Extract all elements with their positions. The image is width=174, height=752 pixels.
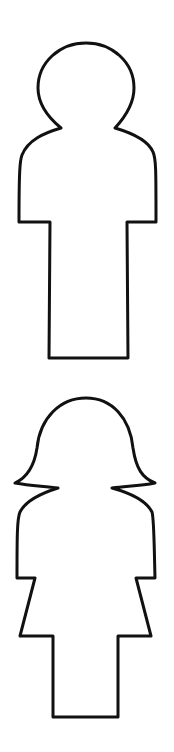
male-figure-outline (19, 43, 156, 358)
female-figure-outline (15, 398, 155, 717)
figures-canvas (0, 0, 174, 752)
